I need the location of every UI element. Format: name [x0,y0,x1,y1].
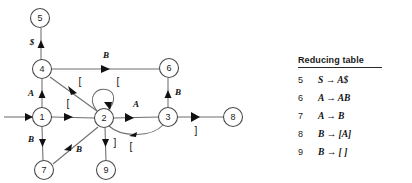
figure-root: $ A B [ [0,0,412,183]
table-row: 7 A → B [298,111,408,129]
edge-label-4-2: [ [79,76,82,87]
edge-label-4-5: $ [29,37,35,47]
edge-label-2-3: A [132,99,139,109]
table-row: 6 A → AB [298,93,408,111]
node-label-4: 4 [39,64,44,74]
edge-label-2-2: [ [117,76,120,87]
node-8[interactable]: 8 [224,108,243,127]
reducing-table-title: Reducing table [298,55,382,68]
edge-7-to-2: B [53,127,98,164]
edge-3-to-6: B [165,78,182,108]
automaton-diagram: $ A B [ [0,0,270,183]
node-4[interactable]: 4 [33,60,52,79]
edge-label-3-6: B [174,87,181,97]
node-6[interactable]: 6 [160,59,179,78]
rule-production: S → A$ [318,75,348,85]
edge-2-to-9: ] [102,127,117,161]
node-2[interactable]: 2 [95,109,114,128]
node-7[interactable]: 7 [35,161,54,180]
edge-3-to-2: [ [109,125,163,152]
edge-4-to-2: [ [50,76,97,111]
node-1[interactable]: 1 [33,108,52,127]
node-3[interactable]: 3 [159,108,178,127]
node-label-1: 1 [39,112,44,122]
edge-1-to-7: B [27,126,46,161]
edge-label-4-6: B [102,50,109,60]
rule-production: A → AB [318,93,350,103]
node-label-5: 5 [37,13,42,23]
node-label-2: 2 [101,113,106,123]
rule-number: 5 [298,75,318,85]
node-label-9: 9 [103,165,108,175]
rule-production: B → [A] [318,129,351,139]
rule-production: B → [ ] [318,147,347,157]
rule-number: 7 [298,111,318,121]
node-5[interactable]: 5 [31,9,50,28]
node-label-8: 8 [230,112,235,122]
edge-4-to-5: $ [29,28,45,60]
edge-label-1-2: [ [67,98,70,109]
edge-2-to-3: A [113,99,159,122]
node-9[interactable]: 9 [97,161,116,180]
edge-label-3-8: ] [195,125,198,136]
reducing-table: Reducing table 5 S → A$ 6 A → AB 7 A → B… [298,55,408,165]
table-row: 8 B → [A] [298,129,408,147]
edge-4-to-6: B [52,50,160,73]
edge-label-1-4: A [27,88,34,98]
reducing-table-rows: 5 S → A$ 6 A → AB 7 A → B 8 B → [A] 9 B … [298,75,408,165]
node-label-6: 6 [166,63,171,73]
table-row: 5 S → A$ [298,75,408,93]
node-label-3: 3 [165,112,170,122]
rule-number: 8 [298,129,318,139]
rule-production: A → B [318,111,344,121]
edge-3-to-8: ] [178,112,224,136]
edge-label-3-2: [ [130,141,133,152]
node-label-7: 7 [41,165,46,175]
table-row: 9 B → [ ] [298,147,408,165]
edge-2-self-loop: [ [92,76,119,111]
edge-1-to-2: [ [52,98,95,121]
edge-1-to-4: A [27,79,46,108]
edge-label-1-7: B [27,134,34,144]
edge-label-2-9: ] [114,137,117,148]
edge-start-to-1 [4,113,33,121]
edge-label-7-2: B [75,144,82,154]
rule-number: 6 [298,93,318,103]
rule-number: 9 [298,147,318,157]
